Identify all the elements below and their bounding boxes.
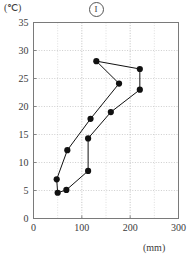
data-point [64,147,70,153]
data-point [63,187,69,193]
x-axis-tick-label: 200 [123,222,138,233]
data-point [116,80,122,86]
y-axis-tick-label: 25 [19,73,29,84]
plot-area: 051015202530350100200300 [0,0,192,261]
y-axis-tick-label: 10 [19,157,29,168]
x-axis-tick-label: 0 [31,222,36,233]
x-axis-tick-label: 300 [171,222,186,233]
data-point [93,58,99,64]
x-axis-tick-label: 100 [74,222,89,233]
data-point [55,190,61,196]
y-axis-tick-label: 5 [24,185,29,196]
data-point [85,135,91,141]
y-axis-tick-label: 30 [19,45,29,56]
data-point [85,168,91,174]
gridlines [34,23,179,219]
axis-tick-labels: 051015202530350100200300 [19,17,187,232]
y-axis-tick-label: 15 [19,129,29,140]
x-axis-unit-label: (mm) [143,242,165,254]
data-line [57,61,140,193]
data-point [54,176,60,182]
data-point [87,116,93,122]
data-point [137,66,143,72]
y-axis-tick-label: 0 [24,213,29,224]
hythergraph-chart: (℃) I 051015202530350100200300 (mm) [0,0,192,261]
data-point [108,109,114,115]
y-axis-tick-label: 35 [19,17,29,28]
y-axis-tick-label: 20 [19,101,29,112]
data-point [137,87,143,93]
series-line-hythergraph [57,61,140,193]
